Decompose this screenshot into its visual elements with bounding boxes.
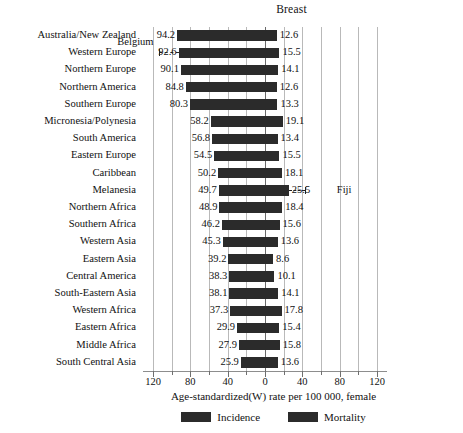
incidence-value: 54.5 (194, 149, 212, 160)
category-label: Melanesia (0, 184, 136, 195)
incidence-bar (218, 168, 265, 178)
mortality-bar (265, 340, 280, 350)
mortality-value: 15.6 (283, 218, 301, 229)
chart-row: South America56.813.4 (0, 130, 463, 147)
category-label: Central America (0, 270, 136, 281)
incidence-bar (214, 151, 265, 161)
mortality-value: 14.1 (281, 63, 299, 74)
annotation-label: Fiji (337, 184, 352, 195)
mortality-bar (265, 306, 282, 316)
mortality-bar (265, 48, 279, 58)
mortality-value: 10.1 (277, 270, 295, 281)
mortality-bar (265, 254, 273, 264)
x-tick (321, 371, 322, 375)
incidence-bar (177, 30, 265, 40)
x-tick (284, 371, 285, 375)
category-label: Australia/New Zealand (0, 29, 136, 40)
chart-row: South Central Asia25.913.6 (0, 354, 463, 371)
category-label: Eastern Africa (0, 321, 136, 332)
mortality-value: 15.5 (282, 46, 300, 57)
legend-label: Incidence (217, 411, 260, 423)
annotation-cap (305, 187, 306, 194)
category-label: Middle Africa (0, 339, 136, 350)
incidence-bar (179, 48, 265, 58)
incidence-bar (229, 288, 265, 298)
x-tick (246, 371, 247, 375)
mortality-value: 19.1 (286, 115, 304, 126)
incidence-value: 80.3 (170, 98, 188, 109)
incidence-bar (223, 237, 265, 247)
incidence-bar (239, 340, 265, 350)
incidence-value: 46.2 (202, 218, 220, 229)
incidence-value: 94.2 (157, 29, 175, 40)
chart-row: Middle Africa27.915.8 (0, 337, 463, 354)
mortality-bar (265, 168, 282, 178)
mortality-value: 15.5 (282, 149, 300, 160)
category-label: Western Asia (0, 235, 136, 246)
chart-container: Breast 120804004080120 Australia/New Zea… (0, 0, 463, 433)
mortality-value: 15.4 (282, 321, 300, 332)
mortality-bar (265, 357, 278, 367)
incidence-value: 38.1 (209, 287, 227, 298)
mortality-bar (265, 65, 278, 75)
category-label: Micronesia/Polynesia (0, 115, 136, 126)
x-tick-label: 80 (170, 376, 210, 387)
category-label: South Central Asia (0, 356, 136, 367)
chart-row: Western Asia45.313.6 (0, 233, 463, 250)
category-label: South-Eastern Asia (0, 287, 136, 298)
category-label: Northern Africa (0, 201, 136, 212)
mortality-value: 18.1 (285, 167, 303, 178)
legend-swatch (181, 412, 211, 422)
incidence-bar (237, 323, 265, 333)
category-label: Southern Europe (0, 98, 136, 109)
mortality-value: 13.6 (281, 235, 299, 246)
mortality-value: 18.4 (285, 201, 303, 212)
incidence-bar (212, 134, 265, 144)
mortality-bar (265, 288, 278, 298)
chart-row: Southern Europe80.313.3 (0, 96, 463, 113)
category-label: Caribbean (0, 167, 136, 178)
chart-row: Central America38.310.1 (0, 268, 463, 285)
category-label: Southern Africa (0, 218, 136, 229)
incidence-value: 49.7 (198, 184, 216, 195)
chart-row: Melanesia49.725.5 (0, 182, 463, 199)
incidence-bar (186, 82, 265, 92)
chart-title: Breast (0, 3, 463, 15)
mortality-bar (265, 82, 277, 92)
chart-row: Northern Europe90.114.1 (0, 61, 463, 78)
mortality-bar (265, 116, 283, 126)
incidence-bar (241, 357, 265, 367)
x-tick-label: 0 (245, 376, 285, 387)
x-axis-label: Age-standardized(W) rate per 100 000, fe… (0, 390, 463, 402)
incidence-value: 90.1 (161, 63, 179, 74)
chart-row: Western Europe92.615.5 (0, 44, 463, 61)
mortality-bar (265, 99, 277, 109)
category-label: Northern Europe (0, 63, 136, 74)
annotation-cap (159, 49, 160, 56)
x-tick (358, 371, 359, 375)
legend-swatch (288, 412, 318, 422)
chart-legend: IncidenceMortality (0, 411, 463, 423)
chart-row: Southern Africa46.215.6 (0, 216, 463, 233)
x-tick-label: 120 (357, 376, 397, 387)
mortality-bar (265, 185, 289, 195)
incidence-bar (228, 254, 265, 264)
mortality-bar (265, 151, 279, 161)
x-tick-label: 80 (320, 376, 360, 387)
mortality-value: 12.6 (280, 29, 298, 40)
incidence-bar (190, 99, 265, 109)
category-label: Eastern Europe (0, 149, 136, 160)
x-tick (172, 371, 173, 375)
incidence-value: 45.3 (202, 235, 220, 246)
annotation-label: Belgium (117, 36, 153, 47)
mortality-value: 15.8 (283, 339, 301, 350)
x-axis-label-text: Age-standardized(W) rate per 100 000, fe… (171, 390, 376, 402)
incidence-bar (222, 220, 265, 230)
legend-item: Incidence (181, 411, 260, 423)
category-label: Western Europe (0, 46, 136, 57)
annotation-leader-line (289, 190, 305, 192)
category-label: Northern America (0, 81, 136, 92)
mortality-value: 14.1 (281, 287, 299, 298)
incidence-value: 37.3 (210, 304, 228, 315)
incidence-value: 50.2 (198, 167, 216, 178)
